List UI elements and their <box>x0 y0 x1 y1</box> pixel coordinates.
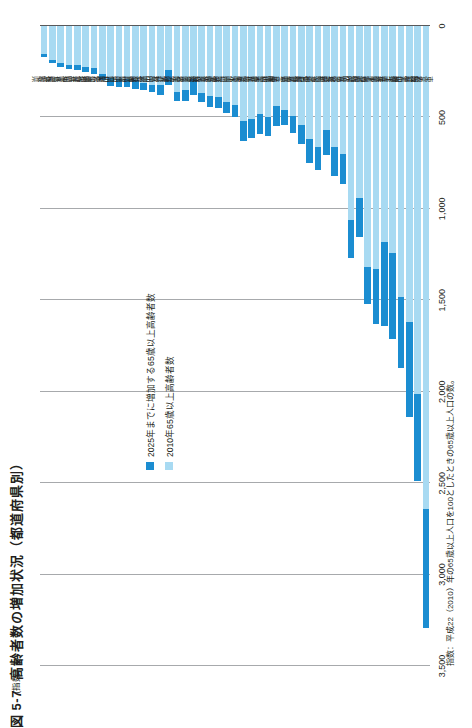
bar-segment-increase <box>298 125 305 144</box>
bar-row <box>248 26 255 666</box>
bar-segment-increase <box>232 105 239 118</box>
bar-segment-increase <box>174 92 181 102</box>
bar-segment-increase <box>356 198 363 237</box>
bar-row <box>414 26 421 666</box>
bar-segment-increase <box>257 114 264 134</box>
bar-segment-increase <box>215 97 222 108</box>
bar-row <box>207 26 214 666</box>
bar-row <box>323 26 330 666</box>
bar-row <box>240 26 247 666</box>
bar-row <box>215 26 222 666</box>
bar-segment-increase <box>240 121 247 141</box>
bar-row <box>364 26 371 666</box>
bar-segment-increase <box>331 147 338 176</box>
bar-row <box>182 26 189 666</box>
bar-row <box>356 26 363 666</box>
bar-segment-increase <box>223 102 230 113</box>
bar-row <box>66 26 73 666</box>
legend-label-base: 2010年65歳以上高齢者数 <box>163 356 175 457</box>
bar-row <box>290 26 297 666</box>
bar-row <box>99 26 106 666</box>
figure-canvas: 図 5-7 高齢者数の増加状況（都道府県別） (指数) 05001,0001,5… <box>0 0 472 728</box>
bar-row <box>406 26 413 666</box>
bar-row <box>315 26 322 666</box>
figure-header: 図 5-7 高齢者数の増加状況（都道府県別） <box>6 0 28 728</box>
bar-segment-increase <box>315 147 322 170</box>
bar-row <box>190 26 197 666</box>
bar-segment-increase <box>306 139 313 163</box>
bar-row <box>116 26 123 666</box>
bar-row <box>273 26 280 666</box>
bar-segment-increase <box>348 220 355 258</box>
legend-swatch-base-icon <box>165 462 173 470</box>
bar-segment-increase <box>265 117 272 135</box>
bar-row <box>132 26 139 666</box>
bar-row <box>373 26 380 666</box>
bar-row <box>124 26 131 666</box>
bar-row <box>423 26 430 666</box>
bar-segment-increase <box>281 110 288 125</box>
bar-row <box>198 26 205 666</box>
bar-row <box>91 26 98 666</box>
bar-segment-increase <box>340 154 347 184</box>
plot-area: (指数) 05001,0001,5002,0002,5003,0003,500 … <box>40 26 430 666</box>
bar-segment-increase <box>414 394 421 482</box>
figure-footnote: 指数：平成22（2010）年の65歳以上人口を100としたときの65歳以上人口の… <box>444 6 455 666</box>
legend: 2025年までに増加する65歳以上高齢者数 2010年65歳以上高齢者数 <box>144 293 175 470</box>
bar-row <box>232 26 239 666</box>
bar-row <box>49 26 56 666</box>
bar-segment-base <box>423 26 430 509</box>
bar-row <box>257 26 264 666</box>
bar-row <box>107 26 114 666</box>
bar-segment-increase <box>406 322 413 417</box>
bar-segment-increase <box>157 85 164 95</box>
bar-row <box>82 26 89 666</box>
legend-item-increase: 2025年までに増加する65歳以上高齢者数 <box>144 293 156 470</box>
bar-row <box>57 26 64 666</box>
bar-row <box>41 26 48 666</box>
bar-segment-increase <box>290 116 297 133</box>
bar-row <box>340 26 347 666</box>
legend-label-increase: 2025年までに増加する65歳以上高齢者数 <box>144 293 156 457</box>
bar-row <box>389 26 396 666</box>
legend-item-base: 2010年65歳以上高齢者数 <box>163 293 175 470</box>
bar-row <box>398 26 405 666</box>
bar-segment-increase <box>273 106 280 125</box>
bar-segment-increase <box>373 269 380 324</box>
bar-row <box>298 26 305 666</box>
bar-segment-increase <box>248 119 255 138</box>
bar-row <box>306 26 313 666</box>
bar-segment-increase <box>423 509 430 628</box>
axis-unit-label: (指数) <box>12 670 22 714</box>
bar-segment-increase <box>207 96 214 107</box>
bar-series-container <box>40 26 430 666</box>
bar-segment-increase <box>182 90 189 101</box>
bar-row <box>223 26 230 666</box>
category-axis-labels: 鳥取県島根県徳島県高知県福井県山梨県佐賀県和歌山県石川県富山県香川県宮崎県山形県… <box>40 16 430 86</box>
category-label: 東京都 <box>422 74 433 83</box>
bar-row <box>74 26 81 666</box>
page-title: 高齢者数の増加状況（都道府県別） <box>6 456 25 680</box>
bar-row <box>348 26 355 666</box>
bar-segment-increase <box>389 253 396 339</box>
bar-segment-increase <box>364 267 371 304</box>
legend-swatch-increase-icon <box>146 462 154 470</box>
bar-segment-increase <box>198 93 205 103</box>
bar-row <box>265 26 272 666</box>
bar-row <box>281 26 288 666</box>
bar-row <box>331 26 338 666</box>
bar-segment-increase <box>381 242 388 326</box>
bar-segment-increase <box>398 297 405 368</box>
bar-segment-increase <box>323 130 330 155</box>
bar-row <box>381 26 388 666</box>
